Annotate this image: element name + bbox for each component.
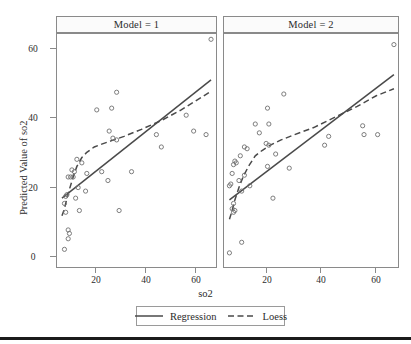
scatter-point	[362, 133, 366, 137]
scatter-point	[227, 251, 231, 255]
scatter-point	[237, 178, 241, 182]
x2-tick-label-40: 40	[310, 275, 332, 285]
panel-1-svg	[57, 34, 216, 267]
legend-item-loess: Loess	[227, 311, 288, 322]
scatter-point	[253, 122, 257, 126]
chart-figure: Predicted Value of so2 60 40 20 0 Model …	[0, 0, 411, 344]
scatter-point	[238, 154, 242, 158]
scatter-point	[240, 240, 244, 244]
scatter-point	[100, 170, 104, 174]
scatter-point	[110, 106, 114, 110]
scatter-point	[274, 152, 278, 156]
legend-solid-line-icon	[134, 312, 164, 320]
scatter-point	[257, 131, 261, 135]
scatter-point	[392, 42, 396, 46]
scatter-point	[322, 143, 326, 147]
panel-plot-model-2	[223, 33, 399, 268]
x1-tick-label-60: 60	[185, 275, 207, 285]
scatter-point	[75, 157, 79, 161]
x-axis-label: so2	[0, 288, 411, 299]
x1-tick-label-20: 20	[85, 275, 107, 285]
scatter-point	[106, 178, 110, 182]
scatter-point	[265, 106, 269, 110]
scatter-point	[230, 171, 234, 175]
scatter-point	[115, 90, 119, 94]
scatter-point	[66, 237, 70, 241]
x1-tick-mark-20	[95, 268, 96, 273]
scatter-point	[62, 247, 66, 251]
scatter-point	[265, 164, 269, 168]
scatter-point	[327, 134, 331, 138]
y-tick-label-0: 0	[22, 252, 44, 262]
x2-tick-mark-20	[266, 268, 267, 273]
scatter-point	[154, 133, 158, 137]
scatter-point	[271, 196, 275, 200]
y-tick-label-20: 20	[22, 183, 44, 193]
panel-strip-model-2: Model = 2	[223, 16, 399, 33]
y-tick-label-60: 60	[22, 44, 44, 54]
scatter-point	[64, 210, 68, 214]
legend-label-loess: Loess	[263, 311, 288, 322]
legend-item-regression: Regression	[134, 311, 217, 322]
x2-tick-label-20: 20	[256, 275, 278, 285]
scatter-point	[77, 208, 81, 212]
scatter-point	[282, 92, 286, 96]
panel-strip-model-1: Model = 1	[56, 16, 217, 33]
scatter-point	[267, 122, 271, 126]
scatter-point	[74, 196, 78, 200]
regression-line	[62, 80, 211, 198]
chart-legend: Regression Loess	[136, 306, 285, 326]
scatter-point	[184, 113, 188, 117]
x2-tick-mark-60	[375, 268, 376, 273]
panel-strip-label-1: Model = 1	[114, 19, 160, 30]
scatter-point	[376, 133, 380, 137]
legend-dashed-line-icon	[227, 312, 257, 320]
scatter-point	[159, 145, 163, 149]
y-tick-label-40: 40	[22, 113, 44, 123]
x1-tick-mark-60	[195, 268, 196, 273]
scatter-point	[117, 208, 121, 212]
y-axis-label: Predicted Value of so2	[18, 120, 29, 215]
scatter-point	[83, 189, 87, 193]
x2-tick-mark-40	[320, 268, 321, 273]
scatter-point	[107, 129, 111, 133]
loess-curve	[229, 89, 393, 220]
scatter-point	[80, 161, 84, 165]
scatter-point	[361, 124, 365, 128]
x2-tick-label-60: 60	[365, 275, 387, 285]
panel-strip-label-2: Model = 2	[288, 19, 334, 30]
panel-plot-model-1	[56, 33, 217, 268]
scatter-point	[287, 166, 291, 170]
bottom-divider	[0, 337, 411, 340]
regression-line	[229, 75, 393, 200]
scatter-point	[85, 171, 89, 175]
scatter-point	[95, 108, 99, 112]
scatter-point	[192, 129, 196, 133]
scatter-point	[209, 37, 213, 41]
scatter-point	[129, 170, 133, 174]
panel-2-svg	[224, 34, 398, 267]
legend-label-regression: Regression	[170, 311, 217, 322]
x1-tick-mark-40	[145, 268, 146, 273]
scatter-point	[204, 133, 208, 137]
x1-tick-label-40: 40	[135, 275, 157, 285]
loess-curve	[62, 91, 211, 216]
